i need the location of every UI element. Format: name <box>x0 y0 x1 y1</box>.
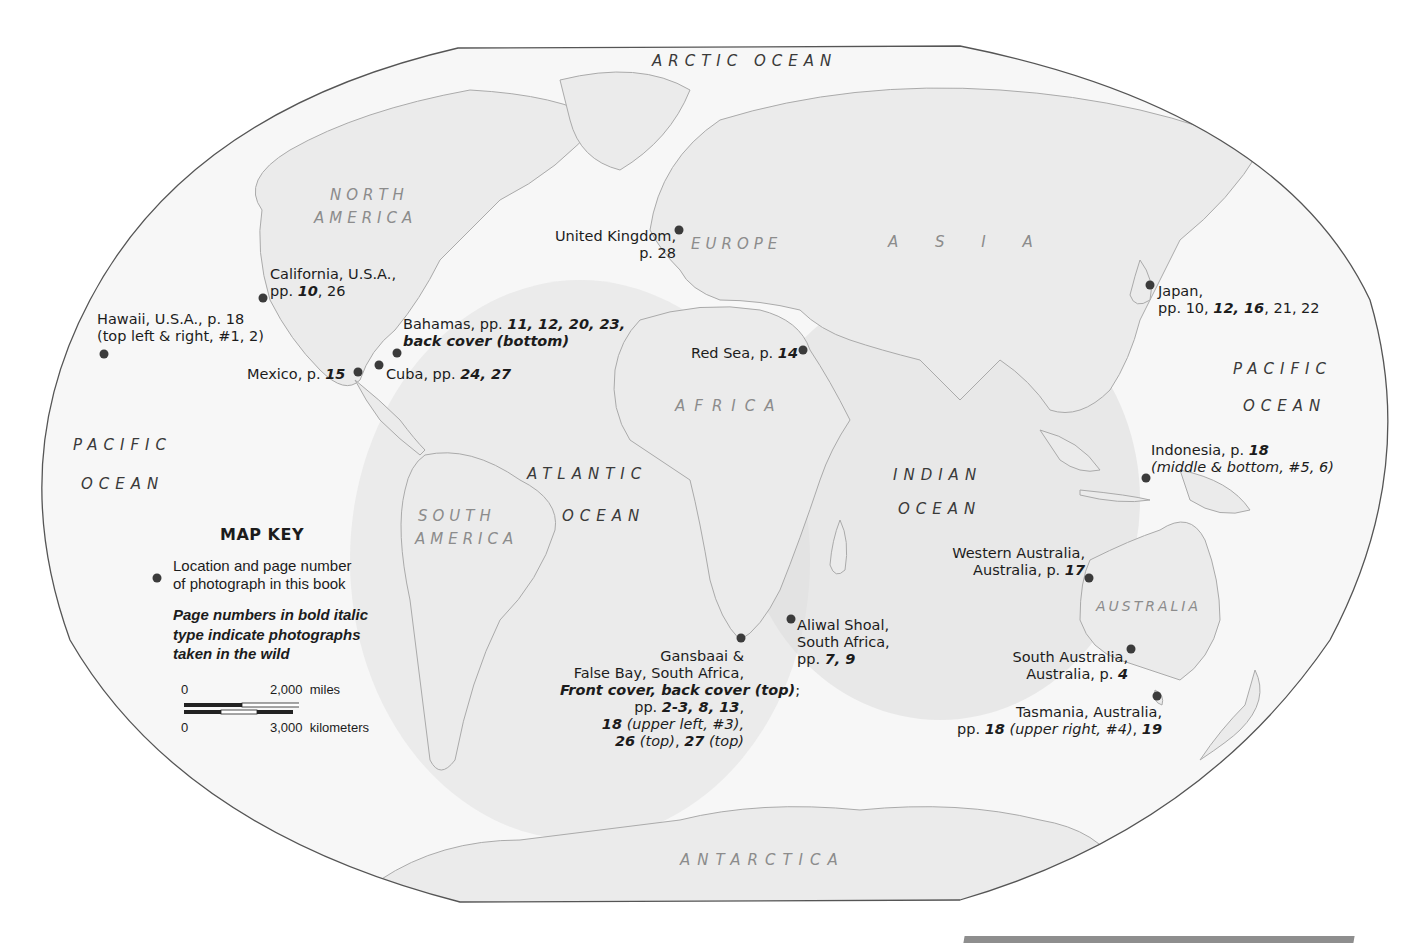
scale-miles-zero: 0 <box>181 682 188 697</box>
label-text: Indonesia, p. <box>1151 442 1249 458</box>
location-label-gansbaai: Gansbaai & False Bay, South Africa, Fron… <box>560 648 744 750</box>
scale-miles-value: 2,000 miles <box>270 682 340 697</box>
label-bold-pages: 18 <box>1249 442 1269 458</box>
label-text: , 21, 22 <box>1264 300 1319 316</box>
label-line: (top left & right, #1, 2) <box>97 328 264 345</box>
ocean-label-pacific-east: PACIFIC <box>1233 360 1332 378</box>
label-line: South Australia, <box>990 649 1128 666</box>
label-text: Mexico, p. <box>247 366 325 382</box>
label-line: pp. 7, 9 <box>797 651 890 668</box>
label-line: South Africa, <box>797 634 890 651</box>
label-text: pp. 10, <box>1158 300 1213 316</box>
location-label-aliwal-shoal: Aliwal Shoal, South Africa, pp. 7, 9 <box>797 617 890 668</box>
location-label-bahamas: Bahamas, pp. 11, 12, 20, 23, back cover … <box>403 316 625 350</box>
key-line: Location and page number <box>173 557 351 575</box>
location-dot-red-sea[interactable] <box>799 346 808 355</box>
label-bold-pages: 18 <box>985 721 1005 737</box>
location-label-western-australia: Western Australia, Australia, p. 17 <box>930 545 1085 579</box>
label-line: Indonesia, p. 18 <box>1151 442 1334 459</box>
location-label-hawaii: Hawaii, U.S.A., p. 18 (top left & right,… <box>97 311 264 345</box>
label-text: pp. <box>957 721 985 737</box>
location-dot-cuba[interactable] <box>375 361 384 370</box>
location-label-south-australia: South Australia, Australia, p. 4 <box>990 649 1128 683</box>
scale-km-value: 3,000 kilometers <box>270 720 369 735</box>
location-label-japan: Japan, pp. 10, 12, 16, 21, 22 <box>1158 283 1320 317</box>
label-text: , <box>675 733 684 749</box>
ocean-label-indian: OCEAN <box>898 500 981 518</box>
location-dot-gansbaai[interactable] <box>737 634 746 643</box>
location-dot-mexico[interactable] <box>354 368 363 377</box>
map-key-dot-icon <box>153 574 162 583</box>
scale-km-zero: 0 <box>181 720 188 735</box>
location-dot-hawaii[interactable] <box>100 350 109 359</box>
label-text: pp. <box>270 283 298 299</box>
label-italic-text: (upper left, #3), <box>622 716 744 732</box>
location-dot-aliwal-shoal[interactable] <box>787 615 796 624</box>
map-key-bold-description: Page numbers in bold italic type indicat… <box>173 605 368 664</box>
label-text: , <box>1133 721 1142 737</box>
continent-label-australia: AUSTRALIA <box>1096 598 1201 614</box>
label-line: False Bay, South Africa, <box>560 665 744 682</box>
label-line: 26 (top), 27 (top) <box>560 733 744 750</box>
label-bold-pages: 11, 12, 20, 23, <box>507 316 625 332</box>
label-bold-pages: 14 <box>778 345 798 361</box>
location-label-indonesia: Indonesia, p. 18 (middle & bottom, #5, 6… <box>1151 442 1334 476</box>
label-line: pp. 2-3, 8, 13, <box>560 699 744 716</box>
location-dot-western-australia[interactable] <box>1085 574 1094 583</box>
location-dot-japan[interactable] <box>1146 281 1155 290</box>
location-dot-indonesia[interactable] <box>1142 474 1151 483</box>
label-text: Australia, p. <box>1026 666 1118 682</box>
label-italic-text: (top) <box>704 733 744 749</box>
label-text: Australia, p. <box>973 562 1065 578</box>
label-line: pp. 10, 26 <box>270 283 396 300</box>
scale-bar <box>184 701 299 715</box>
label-line: Western Australia, <box>930 545 1085 562</box>
label-line: pp. 10, 12, 16, 21, 22 <box>1158 300 1320 317</box>
label-bold-pages: 15 <box>325 366 345 382</box>
label-line: Australia, p. 17 <box>930 562 1085 579</box>
ocean-label-atlantic: OCEAN <box>562 507 645 525</box>
label-text: pp. <box>797 651 825 667</box>
label-bold-pages: 27 <box>684 733 704 749</box>
continent-label-north-america: AMERICA <box>314 209 417 227</box>
decorative-bottom-bar <box>963 936 1354 943</box>
key-line: of photograph in this book <box>173 575 351 593</box>
location-dot-california[interactable] <box>259 294 268 303</box>
label-text: Red Sea, p. <box>691 345 778 361</box>
label-bold-pages: 4 <box>1118 666 1128 682</box>
location-dot-bahamas[interactable] <box>393 349 402 358</box>
map-key-title: MAP KEY <box>220 525 304 544</box>
scale-value: 2,000 <box>270 682 303 697</box>
label-line: Front cover, back cover (top); <box>560 682 744 699</box>
key-line: Page numbers in bold italic <box>173 605 368 625</box>
label-line: Hawaii, U.S.A., p. 18 <box>97 311 264 328</box>
label-italic-line: (middle & bottom, #5, 6) <box>1151 459 1334 476</box>
key-line: type indicate photographs <box>173 625 368 645</box>
label-bold-pages: 26 <box>615 733 635 749</box>
label-line: Gansbaai & <box>560 648 744 665</box>
label-line: California, U.S.A., <box>270 266 396 283</box>
ocean-label-pacific-west: OCEAN <box>81 475 164 493</box>
continent-label-north-america: NORTH <box>330 186 409 204</box>
label-bold-pages: 7, 9 <box>825 651 856 667</box>
label-text: Cuba, pp. <box>386 366 460 382</box>
label-bold-pages: 12, 16 <box>1213 300 1264 316</box>
ocean-label-indian: INDIAN <box>893 466 982 484</box>
label-text: , 26 <box>318 283 346 299</box>
location-label-mexico: Mexico, p. 15 <box>247 366 345 383</box>
label-line: United Kingdom, <box>540 228 676 245</box>
location-dot-tasmania[interactable] <box>1153 692 1162 701</box>
label-bold-pages: 24, 27 <box>460 366 511 382</box>
label-bold-pages: 2-3, 8, 13 <box>662 699 740 715</box>
continent-label-africa: AFRICA <box>675 397 783 415</box>
continent-label-antarctica: ANTARCTICA <box>680 851 845 869</box>
label-italic-text: (top) <box>635 733 675 749</box>
scale-value: 3,000 <box>270 720 303 735</box>
label-bold-pages: 10 <box>298 283 318 299</box>
label-text: ; <box>795 682 800 698</box>
continent-label-europe: EUROPE <box>691 235 782 253</box>
scale-unit: miles <box>310 682 340 697</box>
location-label-red-sea: Red Sea, p. 14 <box>691 345 798 362</box>
label-bold-pages: 18 <box>602 716 622 732</box>
continent-label-south-america: AMERICA <box>415 530 518 548</box>
